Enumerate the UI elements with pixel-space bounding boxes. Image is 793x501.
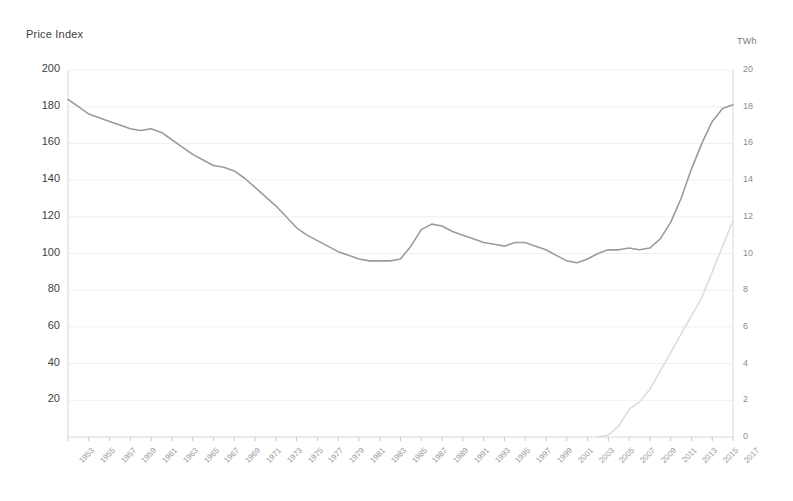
gridlines <box>68 70 733 400</box>
series-line-twh <box>598 220 733 437</box>
x-axis-tick-marks <box>68 437 733 441</box>
plot-area <box>0 0 793 501</box>
dual-axis-line-chart: Price Index TWh 200180160140120100806040… <box>0 0 793 501</box>
series-line-price-index <box>68 99 733 262</box>
